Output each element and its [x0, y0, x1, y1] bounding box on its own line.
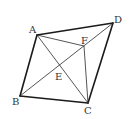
label-E: E: [55, 71, 62, 82]
label-F: F: [81, 35, 88, 46]
label-C: C: [84, 105, 92, 116]
label-A: A: [28, 24, 37, 35]
segment-BA: [20, 35, 37, 96]
label-D: D: [114, 14, 122, 25]
geometry-figure: A D F E B C: [0, 0, 130, 119]
segment-CB: [20, 96, 88, 103]
label-B: B: [12, 96, 19, 107]
segment-DC: [88, 23, 113, 103]
segment-FC: [84, 46, 88, 103]
segment-AD: [37, 23, 113, 35]
